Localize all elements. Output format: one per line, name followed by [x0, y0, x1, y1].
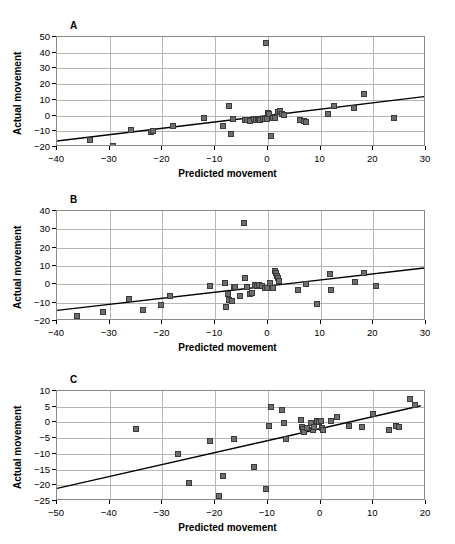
regression-line-c	[57, 391, 425, 500]
y-axis-tick-label: −25	[20, 495, 50, 506]
x-axis-tick-mark	[214, 146, 215, 150]
y-axis-tick-label: 0	[20, 278, 50, 289]
data-point	[298, 417, 304, 423]
data-point	[110, 143, 116, 146]
x-axis-tick-label: −30	[101, 327, 117, 338]
x-axis-tick-mark	[372, 500, 373, 504]
y-axis-tick-mark	[52, 437, 56, 438]
y-axis-tick-label: −20	[20, 479, 50, 490]
x-axis-tick-label: −30	[101, 153, 117, 164]
data-point	[126, 296, 132, 302]
data-point	[276, 278, 282, 284]
data-point	[231, 436, 237, 442]
x-axis-tick-label: 20	[367, 153, 378, 164]
data-point	[220, 473, 226, 479]
data-point	[325, 111, 331, 117]
y-axis-tick-mark	[52, 406, 56, 407]
data-point	[61, 499, 67, 500]
x-axis-tick-label: −40	[48, 327, 64, 338]
data-point	[216, 493, 222, 499]
x-axis-title-c: Predicted movement	[0, 522, 455, 533]
data-point	[351, 105, 357, 111]
y-axis-tick-label: −20	[20, 141, 50, 152]
data-point	[386, 427, 392, 433]
data-point	[303, 281, 309, 287]
data-point	[263, 486, 269, 492]
data-point	[228, 131, 234, 137]
x-axis-tick-mark	[109, 500, 110, 504]
data-point	[318, 418, 324, 424]
data-point	[281, 112, 287, 118]
y-axis-tick-label: −10	[20, 296, 50, 307]
x-axis-tick-label: 20	[367, 327, 378, 338]
data-point	[346, 423, 352, 429]
y-axis-tick-label: 50	[20, 31, 50, 42]
data-point	[225, 291, 231, 297]
x-axis-tick-mark	[320, 500, 321, 504]
x-axis-tick-label: −20	[206, 507, 222, 518]
x-axis-tick-mark	[214, 320, 215, 324]
data-point	[407, 396, 413, 402]
y-axis-tick-label: 5	[20, 400, 50, 411]
y-axis-tick-mark	[52, 484, 56, 485]
data-point	[279, 407, 285, 413]
plot-area-a	[56, 36, 425, 146]
x-axis-tick-mark	[267, 320, 268, 324]
y-axis-title-b: Actual movement	[12, 226, 23, 309]
data-point	[268, 404, 274, 410]
y-axis-tick-label: −10	[20, 125, 50, 136]
x-axis-tick-label: −40	[48, 153, 64, 164]
data-point	[328, 287, 334, 293]
data-point	[272, 115, 278, 121]
y-axis-tick-label: 30	[20, 223, 50, 234]
regression-line-a	[57, 37, 425, 146]
data-point	[370, 411, 376, 417]
x-axis-tick-label: 0	[317, 507, 322, 518]
data-point	[87, 137, 93, 143]
y-axis-tick-label: 40	[20, 46, 50, 57]
data-point	[230, 116, 236, 122]
y-axis-tick-mark	[52, 99, 56, 100]
x-axis-tick-mark	[56, 146, 57, 150]
x-axis-tick-label: 0	[264, 327, 269, 338]
data-point	[201, 115, 207, 121]
x-axis-tick-mark	[161, 320, 162, 324]
data-point	[158, 302, 164, 308]
data-point	[361, 91, 367, 97]
data-point	[295, 287, 301, 293]
data-point	[320, 427, 326, 433]
panel-letter-a: A	[70, 20, 77, 31]
x-axis-tick-label: 10	[314, 153, 325, 164]
y-axis-tick-label: 0	[20, 416, 50, 427]
data-point	[128, 127, 134, 133]
y-axis-title-a: Actual movement	[12, 52, 23, 135]
chart-panel-a: A−20−1001020304050−40−30−20−100102030Act…	[0, 14, 455, 180]
data-point	[361, 270, 367, 276]
panel-letter-b: B	[70, 194, 77, 205]
y-axis-tick-label: 10	[20, 385, 50, 396]
x-axis-tick-label: −20	[153, 153, 169, 164]
data-point	[391, 115, 397, 121]
x-axis-tick-label: −40	[101, 507, 117, 518]
data-point	[359, 424, 365, 430]
regression-line-b	[57, 211, 425, 320]
x-axis-tick-label: −20	[153, 327, 169, 338]
data-point	[334, 414, 340, 420]
data-point	[222, 280, 228, 286]
y-axis-tick-label: 0	[20, 109, 50, 120]
data-point	[167, 293, 173, 299]
data-point	[249, 290, 255, 296]
x-axis-tick-label: 30	[420, 327, 431, 338]
data-point	[140, 307, 146, 313]
x-axis-tick-label: 20	[420, 507, 431, 518]
data-point	[270, 285, 276, 291]
x-axis-tick-label: 30	[420, 153, 431, 164]
x-axis-tick-label: 0	[264, 153, 269, 164]
panel-letter-c: C	[70, 374, 77, 385]
x-axis-tick-mark	[425, 320, 426, 324]
data-point	[207, 283, 213, 289]
running-head	[0, 0, 455, 8]
data-point	[207, 438, 213, 444]
data-point	[266, 423, 272, 429]
data-point	[331, 103, 337, 109]
